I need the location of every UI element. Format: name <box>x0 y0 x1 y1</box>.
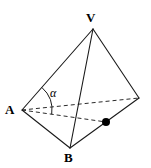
geometry-figure: V A B α <box>0 0 151 168</box>
edge-V-A <box>22 29 93 110</box>
vertex-label-b: B <box>64 151 73 164</box>
tetrahedron-drawing <box>0 0 151 168</box>
edge-A-B <box>22 110 70 148</box>
edge-V-B <box>70 29 93 148</box>
vertex-label-a: A <box>5 103 14 116</box>
dashed-edge-group <box>22 98 139 122</box>
vertex-label-v: V <box>86 11 95 24</box>
edge-A-C <box>22 98 139 110</box>
solid-edge-group <box>22 29 139 148</box>
angle-label-alpha: α <box>50 87 56 99</box>
edge-V-C <box>93 29 139 98</box>
midpoint-marker <box>102 118 110 126</box>
